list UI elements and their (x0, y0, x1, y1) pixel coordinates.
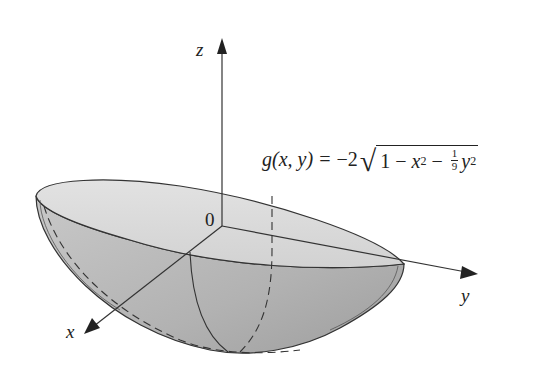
radicand-prefix: 1 − (380, 151, 411, 171)
y-axis-arrow-icon (460, 266, 478, 279)
z-axis-label: z (196, 40, 203, 59)
y-var: y (461, 151, 470, 171)
formula-lhs: g(x, y) = (262, 149, 332, 169)
sqrt-icon: √ (360, 146, 376, 176)
y-exp: 2 (470, 155, 476, 167)
frac-den: 9 (452, 161, 458, 173)
surface-svg (0, 0, 538, 372)
x-var: x (412, 151, 421, 171)
fraction: 1 9 (451, 148, 459, 172)
formula-radicand: 1 − x2 − 1 9 y2 (376, 145, 478, 172)
formula-minus: − (427, 151, 448, 171)
x-axis-label: x (66, 322, 74, 341)
function-formula: g(x, y) = −2 √ 1 − x2 − 1 9 y2 (262, 144, 478, 174)
x-axis-arrow-icon (84, 318, 100, 334)
z-axis-arrow-icon (217, 38, 227, 54)
origin-label: 0 (205, 210, 215, 229)
ellipsoid-diagram: z y x 0 g(x, y) = −2 √ 1 − x2 − 1 9 y2 (0, 0, 538, 372)
formula-coef: −2 (337, 149, 358, 169)
y-axis-label: y (461, 286, 469, 305)
